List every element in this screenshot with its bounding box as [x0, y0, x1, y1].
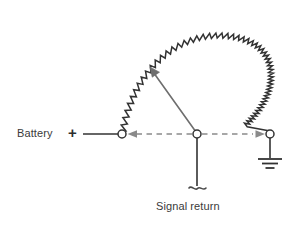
left-terminal-node [118, 130, 126, 138]
battery-label: Battery [17, 127, 53, 139]
ground-symbol [258, 138, 282, 168]
left-current-arrow [128, 130, 193, 138]
left-current-arrow-head [128, 130, 138, 138]
wiper-arrow-shaft [154, 73, 197, 133]
wire-break-squiggle-icon [189, 187, 206, 189]
right-current-arrow-head [256, 130, 266, 138]
right-terminal-node [266, 130, 274, 138]
center-wiper-node [193, 130, 201, 138]
wiper-arrow-head [150, 67, 160, 77]
right-current-arrow [202, 130, 265, 138]
potentiometer-circuit-diagram: Battery + Signal return [0, 0, 301, 228]
wiper-arrow [150, 67, 196, 132]
resistor-arc-zigzag-path [121, 33, 273, 132]
circuit-schematic-svg [0, 0, 301, 228]
battery-polarity-label: + [68, 124, 77, 141]
signal-return-label: Signal return [156, 200, 220, 212]
resistor-arc [121, 33, 273, 132]
